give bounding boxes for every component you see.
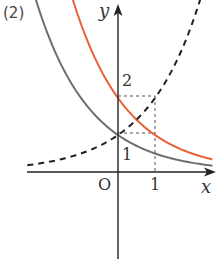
origin-label: O bbox=[98, 177, 111, 193]
y-tick-2-label: 2 bbox=[122, 73, 132, 89]
y-axis-label: y bbox=[99, 2, 109, 20]
curve-two-power-x bbox=[27, 0, 203, 165]
curve-two-times-half-power-x bbox=[68, 0, 212, 159]
exponential-graph bbox=[0, 0, 222, 259]
x-axis-label: x bbox=[201, 178, 211, 196]
y-tick-1-label: 1 bbox=[122, 147, 132, 163]
x-tick-1-label: 1 bbox=[150, 177, 160, 193]
problem-label: (2) bbox=[3, 6, 24, 21]
